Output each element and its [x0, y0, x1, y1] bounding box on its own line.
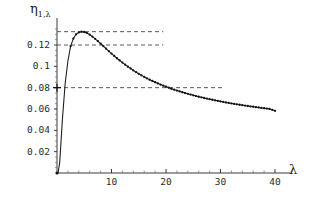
x-tick-label: 10: [98, 177, 126, 187]
data-point: [263, 107, 265, 109]
data-point: [162, 84, 164, 86]
data-point: [247, 105, 249, 107]
x-tick-label: 30: [207, 177, 235, 187]
x-tick-marks: [68, 169, 275, 173]
data-point: [69, 45, 71, 47]
data-point: [110, 52, 112, 54]
data-point: [116, 57, 118, 59]
data-point: [214, 99, 216, 101]
x-axis-title: λ: [289, 163, 297, 176]
data-point: [271, 109, 273, 111]
data-point: [258, 106, 260, 108]
data-point: [143, 76, 145, 78]
data-point: [83, 31, 85, 33]
data-point: [230, 102, 232, 104]
data-point: [129, 67, 131, 69]
data-point: [165, 86, 167, 88]
data-point: [140, 74, 142, 76]
x-tick-label: 40: [261, 177, 289, 187]
data-point: [184, 92, 186, 94]
data-point: [268, 108, 270, 110]
data-point: [157, 82, 159, 84]
data-point: [102, 45, 104, 47]
data-point: [72, 37, 74, 39]
data-point: [113, 55, 115, 57]
data-point: [233, 103, 235, 105]
y-axis-title: η1,λ: [30, 2, 51, 19]
data-point: [181, 91, 183, 93]
data-point: [105, 47, 107, 49]
data-point: [138, 73, 140, 75]
data-point: [176, 89, 178, 91]
data-point: [119, 59, 121, 61]
data-point: [173, 88, 175, 90]
data-point: [211, 99, 213, 101]
y-axis-subscript: 1,λ: [38, 10, 51, 19]
y-tick-label: 0.06: [0, 104, 50, 114]
x-tick-label: 20: [152, 177, 180, 187]
data-point: [241, 104, 243, 106]
data-point: [244, 104, 246, 106]
data-point: [151, 80, 153, 82]
data-point: [75, 33, 77, 35]
data-point: [149, 79, 151, 81]
data-point: [236, 103, 238, 105]
y-tick-label: 0.04: [0, 125, 50, 135]
data-point: [266, 107, 268, 109]
data-point: [80, 31, 82, 33]
data-point: [121, 61, 123, 63]
data-point: [217, 100, 219, 102]
data-point: [94, 38, 96, 40]
data-point: [249, 105, 251, 107]
data-point: [170, 88, 172, 90]
data-point: [252, 106, 254, 108]
data-point: [154, 81, 156, 83]
data-point: [208, 98, 210, 100]
data-point: [108, 50, 110, 52]
y-tick-label: 0.1: [0, 61, 50, 71]
y-tick-label: 0.08: [0, 83, 50, 93]
data-point: [168, 87, 170, 89]
data-point: [178, 90, 180, 92]
data-point: [255, 106, 257, 108]
data-point: [135, 71, 137, 73]
data-point: [198, 96, 200, 98]
data-point: [195, 95, 197, 97]
data-point: [146, 77, 148, 79]
data-point: [132, 69, 134, 71]
data-point: [97, 40, 99, 42]
data-point: [228, 102, 230, 104]
chart-figure: η1,λ λ 0.020.040.060.080.10.12 10203040: [0, 0, 311, 205]
data-series: [57, 32, 275, 173]
data-point: [200, 96, 202, 98]
data-point: [89, 34, 91, 36]
data-point: [86, 32, 88, 34]
data-point: [238, 104, 240, 106]
y-tick-label: 0.12: [0, 40, 50, 50]
axis-group: [57, 18, 290, 173]
data-point: [187, 93, 189, 95]
data-point: [203, 97, 205, 99]
data-point-markers: [55, 31, 276, 175]
data-point: [260, 107, 262, 109]
data-point: [189, 93, 191, 95]
data-point: [127, 66, 129, 68]
y-tick-label: 0.02: [0, 147, 50, 157]
data-point: [124, 63, 126, 65]
data-point: [206, 97, 208, 99]
data-point: [78, 31, 80, 33]
data-point: [225, 101, 227, 103]
data-point: [219, 100, 221, 102]
data-point: [159, 83, 161, 85]
data-point: [274, 110, 276, 112]
y-axis-symbol: η: [30, 1, 38, 16]
data-point: [192, 94, 194, 96]
origin-point: [55, 171, 58, 174]
data-point: [222, 101, 224, 103]
series-line: [57, 32, 275, 173]
annotation-lines: [53, 32, 223, 92]
data-point: [99, 42, 101, 44]
data-point: [91, 35, 93, 37]
